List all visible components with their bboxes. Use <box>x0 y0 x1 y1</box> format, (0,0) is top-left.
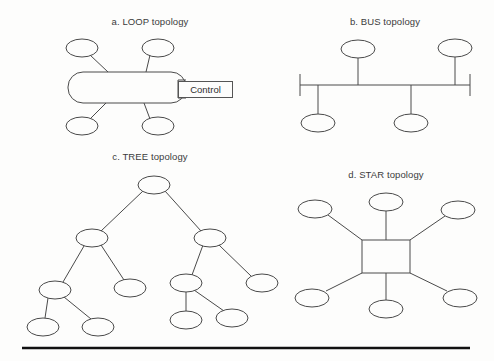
loop-link-bottom-right <box>144 103 150 119</box>
panel-bus <box>300 39 472 132</box>
tree-leaf-b <box>82 318 114 336</box>
tree-link-right-a <box>192 245 203 275</box>
tree-link-left-a <box>63 246 84 282</box>
star-node-bottom-right <box>443 289 477 307</box>
star-spoke-bottom-right <box>410 273 447 291</box>
loop-link-top-right <box>146 55 150 72</box>
tree-node-right-child-b <box>246 274 278 292</box>
tree-link-root-left <box>101 191 143 231</box>
loop-ring <box>68 72 186 103</box>
tree-link-root-right <box>165 191 201 231</box>
star-hub <box>362 240 410 273</box>
tree-link-leaf-d <box>194 290 224 311</box>
caption-bus: b. BUS topology <box>325 16 445 27</box>
loop-node-top-left <box>66 39 98 57</box>
bus-node-bottom-left <box>301 114 335 132</box>
caption-loop: a. LOOP topology <box>90 16 210 27</box>
panel-tree <box>27 176 278 336</box>
star-node-top-right <box>441 201 475 219</box>
star-node-top-center <box>369 193 403 211</box>
loop-link-bottom-left <box>90 103 106 119</box>
tree-node-left-child-a <box>39 281 71 299</box>
loop-node-bottom-right <box>142 117 174 135</box>
star-spoke-top-left <box>328 215 362 240</box>
tree-leaf-d <box>216 309 248 327</box>
tree-node-right-child-a <box>170 274 202 292</box>
panel-loop <box>66 39 186 135</box>
tree-link-leaf-a <box>45 298 48 318</box>
panel-star <box>295 193 477 318</box>
tree-node-left <box>76 229 108 247</box>
tree-leaf-c <box>170 311 202 329</box>
star-node-bottom-center <box>369 300 403 318</box>
star-node-bottom-left <box>295 289 329 307</box>
tree-leaf-a <box>27 318 59 336</box>
tree-link-right-b <box>219 245 251 276</box>
caption-star: d. STAR topology <box>326 169 446 180</box>
loop-control-label: Control <box>178 81 233 98</box>
loop-link-top-left <box>90 55 108 72</box>
figure-canvas: a. LOOP topology b. BUS topology c. TREE… <box>0 0 494 361</box>
bus-node-bottom-right <box>394 114 428 132</box>
star-node-top-left <box>298 200 332 218</box>
star-spoke-bottom-left <box>326 273 362 291</box>
tree-node-root <box>138 176 170 194</box>
loop-node-top-right <box>142 39 174 57</box>
star-spoke-top-right <box>410 216 445 240</box>
caption-tree: c. TREE topology <box>90 151 210 162</box>
bus-node-top-right <box>438 39 472 57</box>
tree-link-left-b <box>101 245 124 280</box>
tree-link-leaf-b <box>64 297 91 319</box>
loop-node-bottom-left <box>66 117 98 135</box>
tree-node-right <box>194 229 226 247</box>
bus-node-top-left <box>341 40 375 58</box>
topology-diagram <box>0 0 494 361</box>
tree-node-left-child-b <box>114 279 146 297</box>
